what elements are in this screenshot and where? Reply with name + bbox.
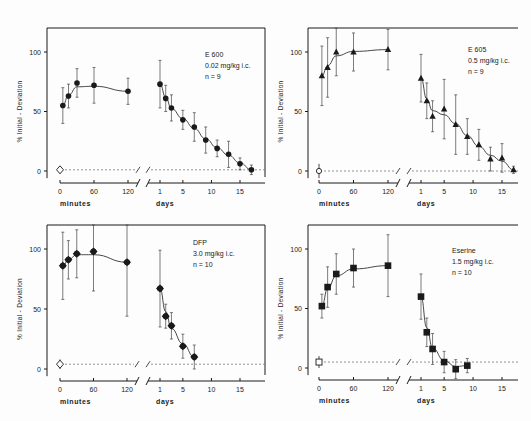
fit-curve-minutes xyxy=(63,86,128,105)
data-point-minutes xyxy=(74,80,80,86)
x-tick-label: 15 xyxy=(498,188,506,195)
x-tick-label: 120 xyxy=(121,386,133,393)
y-tick-label: 50 xyxy=(294,305,302,312)
data-point-days xyxy=(424,97,430,103)
y-tick-label: 0 xyxy=(298,168,302,175)
legend-line: Eserine xyxy=(452,247,476,254)
data-point-minutes xyxy=(124,259,130,265)
data-point-minutes xyxy=(385,46,391,52)
data-point-days xyxy=(191,354,197,360)
data-point-minutes xyxy=(66,93,72,99)
legend-line: E 600 xyxy=(205,51,223,58)
baseline-break-mark xyxy=(396,168,400,174)
data-point-days xyxy=(163,96,169,102)
baseline-marker xyxy=(57,360,64,368)
data-point-minutes xyxy=(125,88,131,94)
figure: 050100% Initial - Deviation060120151015m… xyxy=(0,0,531,421)
legend-line: n = 10 xyxy=(193,261,213,268)
data-point-days xyxy=(441,359,448,366)
y-tick-label: 100 xyxy=(290,246,302,253)
legend-line: 0.5 mg/kg i.c. xyxy=(468,57,510,65)
data-point-minutes xyxy=(60,263,66,269)
baseline-break-mark xyxy=(407,168,411,174)
y-tick-label: 100 xyxy=(29,49,41,56)
x-tick-label: 60 xyxy=(350,188,358,195)
legend-line: n = 9 xyxy=(468,68,484,75)
y-tick-label: 100 xyxy=(29,246,41,253)
y-tick-label: 0 xyxy=(37,366,41,373)
x-tick-label: 5 xyxy=(442,188,446,195)
x-axis-label-days: days xyxy=(156,398,174,406)
data-point-days xyxy=(163,313,169,319)
x-tick-label: 1 xyxy=(158,386,162,393)
fit-curve-days xyxy=(160,289,194,357)
x-tick-label: 5 xyxy=(442,385,446,392)
legend-line: n = 9 xyxy=(205,73,221,80)
x-axis-label-days: days xyxy=(156,200,174,208)
data-point-days xyxy=(423,329,430,336)
data-point-days xyxy=(441,106,447,112)
x-axis-label-days: days xyxy=(417,397,435,405)
panel-dfp: 050100% Initial - Deviation060120151015m… xyxy=(16,225,265,406)
data-point-minutes xyxy=(324,284,331,291)
y-tick-label: 50 xyxy=(33,306,41,313)
data-point-days xyxy=(203,137,209,143)
x-tick-label: 10 xyxy=(208,386,216,393)
data-point-minutes xyxy=(385,262,392,269)
fit-curve-minutes xyxy=(63,255,127,266)
baseline-marker xyxy=(316,359,322,365)
x-tick-label: 15 xyxy=(236,386,244,393)
x-tick-label: 0 xyxy=(58,386,62,393)
data-point-days xyxy=(214,146,220,152)
x-tick-label: 0 xyxy=(317,385,321,392)
data-point-days xyxy=(157,286,163,292)
baseline-break-mark xyxy=(396,359,400,365)
data-point-days xyxy=(452,366,459,373)
x-tick-label: 5 xyxy=(181,188,185,195)
data-point-days xyxy=(418,293,425,300)
data-point-minutes xyxy=(350,265,357,272)
data-point-minutes xyxy=(333,49,339,55)
y-tick-label: 50 xyxy=(33,108,41,115)
data-point-days xyxy=(180,117,186,123)
baseline-break-mark xyxy=(135,361,139,367)
legend-line: E 605 xyxy=(468,46,486,53)
y-tick-label: 0 xyxy=(37,168,41,175)
data-point-days xyxy=(237,161,243,167)
data-point-days xyxy=(487,156,493,162)
data-point-days xyxy=(499,154,505,160)
baseline-marker xyxy=(316,168,321,173)
y-tick-label: 50 xyxy=(294,108,302,115)
x-tick-label: 120 xyxy=(122,188,134,195)
y-axis-label: % Initial - Deviation xyxy=(277,80,284,142)
data-point-minutes xyxy=(60,103,66,109)
panel-eserine: 050100% Initial - Deviation060120151015m… xyxy=(277,225,518,405)
x-tick-label: 1 xyxy=(419,385,423,392)
data-point-days xyxy=(418,75,424,81)
x-tick-label: 1 xyxy=(419,188,423,195)
x-tick-label: 60 xyxy=(350,385,358,392)
x-tick-label: 15 xyxy=(236,188,244,195)
data-point-days xyxy=(169,105,175,111)
legend-line: 3.0 mg/kg i.c. xyxy=(193,250,235,258)
legend-line: DFP xyxy=(193,239,207,246)
x-tick-label: 60 xyxy=(90,386,98,393)
x-tick-label: 60 xyxy=(90,188,98,195)
data-point-days xyxy=(429,346,436,353)
data-point-days xyxy=(226,152,232,158)
y-tick-label: 0 xyxy=(298,365,302,372)
data-point-days xyxy=(476,141,482,147)
x-tick-label: 0 xyxy=(58,188,62,195)
legend-line: 0.02 mg/kg i.c. xyxy=(205,62,251,70)
x-axis-label-minutes: minutes xyxy=(319,397,350,404)
data-point-days xyxy=(168,323,174,329)
data-point-days xyxy=(191,124,197,130)
baseline-break-mark xyxy=(407,359,411,365)
fit-curve-minutes xyxy=(322,266,388,306)
y-axis-label: % Initial - Deviation xyxy=(277,277,284,339)
legend-line: n = 10 xyxy=(452,269,472,276)
legend-line: 1.5 mg/kg i.c. xyxy=(452,258,494,266)
baseline-break-mark xyxy=(136,167,140,173)
x-axis-label-minutes: minutes xyxy=(319,200,350,207)
data-point-days xyxy=(157,81,163,87)
